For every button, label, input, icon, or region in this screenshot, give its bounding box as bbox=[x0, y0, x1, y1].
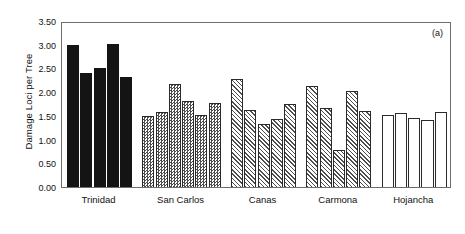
bar bbox=[284, 104, 296, 187]
y-tick-label: 1.50 bbox=[18, 112, 56, 122]
y-tick-label: 3.00 bbox=[18, 41, 56, 51]
bar bbox=[306, 86, 318, 188]
bar bbox=[156, 112, 168, 187]
bar bbox=[94, 68, 106, 187]
group-label-san-carlos: San Carlos bbox=[157, 194, 204, 205]
bar bbox=[421, 120, 433, 187]
group-label-hojancha: Hojancha bbox=[393, 194, 433, 205]
bar bbox=[382, 115, 394, 187]
y-tick-label: 3.50 bbox=[18, 17, 56, 27]
bar bbox=[231, 79, 243, 187]
bar bbox=[395, 113, 407, 187]
bar bbox=[244, 110, 256, 187]
y-tick-label: 1.00 bbox=[18, 136, 56, 146]
y-tick-label: 2.00 bbox=[18, 88, 56, 98]
group-label-carmona: Carmona bbox=[318, 194, 357, 205]
bar bbox=[408, 118, 420, 187]
bar bbox=[346, 91, 358, 187]
plot-area: (a) bbox=[61, 22, 451, 188]
y-tick-label: 0.50 bbox=[18, 159, 56, 169]
group-label-canas: Canas bbox=[249, 194, 276, 205]
bar bbox=[182, 101, 194, 187]
bar bbox=[195, 115, 207, 187]
bar bbox=[333, 150, 345, 187]
bar bbox=[435, 112, 447, 187]
y-tick-label: 0.00 bbox=[18, 183, 56, 193]
bar bbox=[258, 124, 270, 187]
bar bbox=[359, 111, 371, 187]
bar bbox=[169, 84, 181, 187]
bar bbox=[120, 77, 132, 188]
group-label-trinidad: Trinidad bbox=[82, 194, 116, 205]
bar bbox=[271, 119, 283, 187]
bar bbox=[80, 73, 92, 187]
panel-label: (a) bbox=[432, 28, 443, 38]
bar bbox=[209, 103, 221, 187]
bars-container bbox=[62, 23, 450, 187]
bar bbox=[320, 108, 332, 187]
bar bbox=[67, 45, 79, 187]
bar bbox=[142, 116, 154, 187]
y-axis-tick-labels: 0.000.501.001.502.002.503.003.50 bbox=[18, 0, 56, 234]
chart-figure: Damage Loci per Tree 0.000.501.001.502.0… bbox=[0, 0, 465, 234]
x-axis-group-labels: TrinidadSan CarlosCanasCarmonaHojancha bbox=[61, 194, 451, 214]
bar bbox=[107, 44, 119, 187]
y-tick-label: 2.50 bbox=[18, 64, 56, 74]
